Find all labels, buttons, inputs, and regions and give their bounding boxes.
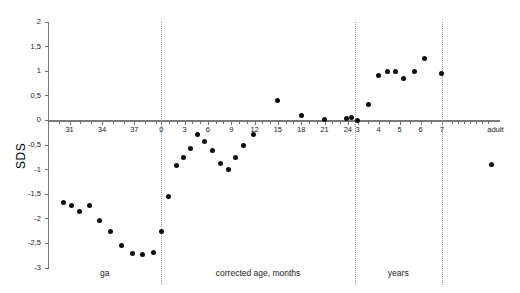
- x-tick-minor: [48, 121, 49, 124]
- y-tick: [45, 145, 49, 146]
- data-point: [108, 229, 113, 234]
- x-tick-minor: [317, 121, 318, 124]
- x-tick-minor: [464, 121, 465, 124]
- data-point: [393, 69, 398, 74]
- data-point: [151, 250, 156, 255]
- segment-label: years: [328, 268, 468, 278]
- data-point: [97, 218, 102, 223]
- x-tick-label: 31: [56, 126, 84, 134]
- data-point: [188, 146, 193, 151]
- data-point: [401, 76, 406, 81]
- y-tick-label: 1,5: [8, 43, 41, 51]
- chart-canvas: SDS 21,510,50-0,5-1-1,5-2-2,5-3 31343703…: [0, 0, 520, 293]
- data-point: [210, 148, 215, 153]
- y-tick-label: -2: [8, 215, 41, 223]
- x-tick-minor: [309, 121, 310, 124]
- data-point: [366, 102, 371, 107]
- data-point: [241, 143, 246, 148]
- y-tick-label: 0,5: [8, 92, 41, 100]
- data-point: [166, 194, 171, 199]
- y-tick: [45, 169, 49, 170]
- data-point: [119, 243, 124, 248]
- x-tick-minor: [200, 121, 201, 124]
- data-point: [299, 113, 304, 118]
- data-point: [174, 163, 179, 168]
- y-tick: [45, 218, 49, 219]
- y-tick: [45, 46, 49, 47]
- y-tick: [45, 71, 49, 72]
- x-tick-label: adult: [481, 126, 509, 134]
- x-tick-minor: [59, 121, 60, 124]
- x-tick-minor: [192, 121, 193, 124]
- y-tick-label: -2,5: [8, 239, 41, 247]
- data-point: [251, 132, 256, 137]
- x-tick-minor: [332, 121, 333, 124]
- data-point: [61, 200, 66, 205]
- data-point: [226, 167, 231, 172]
- data-point: [202, 139, 207, 144]
- x-tick-minor: [389, 121, 390, 124]
- x-tick-minor: [216, 121, 217, 124]
- x-tick-minor: [247, 121, 248, 124]
- x-tick-minor: [239, 121, 240, 124]
- x-tick-minor: [270, 121, 271, 124]
- x-tick-minor: [91, 121, 92, 124]
- x-tick-label: 37: [120, 126, 148, 134]
- y-tick-label: 0: [8, 116, 41, 124]
- segment-label: ga: [35, 268, 175, 278]
- y-tick-label: -1,5: [8, 190, 41, 198]
- data-point: [233, 155, 238, 160]
- x-tick-minor: [368, 121, 369, 124]
- y-tick-label: 2: [8, 18, 41, 26]
- x-tick-minor: [124, 121, 125, 124]
- data-point: [376, 73, 381, 78]
- x-tick-minor: [476, 121, 477, 124]
- data-point: [412, 69, 417, 74]
- data-point: [77, 209, 82, 214]
- data-point: [159, 229, 164, 234]
- segment-divider: [161, 22, 162, 285]
- data-point: [69, 203, 74, 208]
- segment-divider: [442, 22, 443, 285]
- segment-label: corrected age, months: [188, 268, 328, 278]
- y-tick-label: -0,5: [8, 141, 41, 149]
- y-tick: [45, 22, 49, 23]
- data-point: [140, 252, 145, 257]
- x-axis-line: [48, 120, 500, 121]
- y-tick: [45, 194, 49, 195]
- x-tick-minor: [80, 121, 81, 124]
- x-tick-minor: [169, 121, 170, 124]
- data-point: [181, 155, 186, 160]
- y-tick: [45, 243, 49, 244]
- x-tick-minor: [145, 121, 146, 124]
- data-point: [355, 118, 360, 123]
- data-point: [130, 251, 135, 256]
- data-point: [195, 132, 200, 137]
- x-tick-minor: [410, 121, 411, 124]
- data-point: [385, 69, 390, 74]
- x-tick-minor: [482, 121, 483, 124]
- data-point: [218, 161, 223, 166]
- y-tick-label: 1: [8, 67, 41, 75]
- data-point: [87, 203, 92, 208]
- data-point: [322, 117, 327, 122]
- data-point: [439, 71, 444, 76]
- x-tick-minor: [293, 121, 294, 124]
- x-tick-minor: [458, 121, 459, 124]
- x-tick-minor: [156, 121, 157, 124]
- data-point: [422, 56, 427, 61]
- x-tick-minor: [488, 121, 489, 124]
- x-tick-label: 34: [88, 126, 116, 134]
- x-tick-minor: [340, 121, 341, 124]
- data-point: [275, 98, 280, 103]
- x-tick-minor: [286, 121, 287, 124]
- x-tick-minor: [431, 121, 432, 124]
- data-point: [489, 162, 494, 167]
- x-tick-minor: [470, 121, 471, 124]
- y-tick: [45, 95, 49, 96]
- x-tick-minor: [113, 121, 114, 124]
- x-tick-minor: [452, 121, 453, 124]
- y-tick-label: -1: [8, 166, 41, 174]
- x-tick-minor: [223, 121, 224, 124]
- x-tick-minor: [262, 121, 263, 124]
